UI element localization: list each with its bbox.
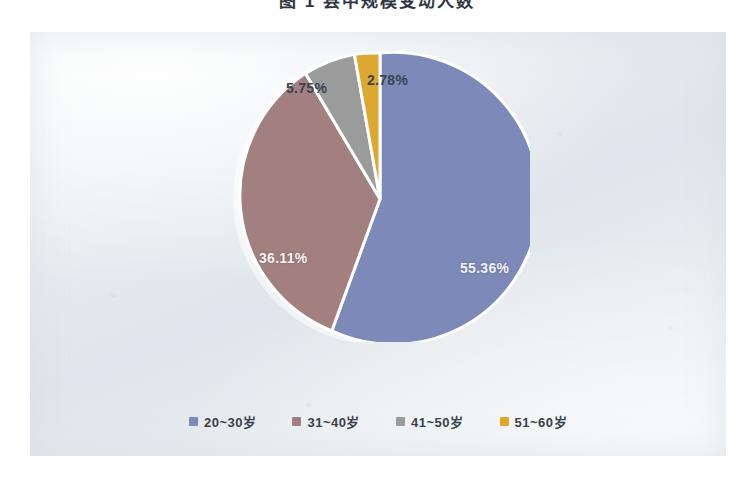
slice-label-51-60: 2.78%	[367, 72, 408, 88]
pie-graphic	[230, 46, 530, 342]
legend-item-41-50[interactable]: 41~50岁	[396, 412, 464, 431]
legend-swatch-icon-31-40	[292, 417, 301, 426]
legend-label-41-50: 41~50岁	[411, 412, 464, 431]
legend-label-51-60: 51~60岁	[515, 412, 568, 431]
legend-swatch-icon-20-30	[189, 417, 198, 426]
figure-title: 图 1 县中规模变动人数	[0, 0, 754, 9]
pie-chart-plot-area: 55.36% 36.11% 5.75% 2.78% 20~30岁 31~40岁 …	[30, 32, 726, 456]
legend-item-20-30[interactable]: 20~30岁	[189, 412, 257, 431]
slice-label-31-40: 36.11%	[259, 250, 308, 266]
legend-item-31-40[interactable]: 31~40岁	[292, 412, 360, 431]
legend-label-20-30: 20~30岁	[204, 412, 257, 431]
chart-legend: 20~30岁 31~40岁 41~50岁 51~60岁	[30, 412, 726, 431]
legend-swatch-icon-51-60	[500, 417, 509, 426]
pie-svg	[230, 46, 530, 342]
slice-label-41-50: 5.75%	[286, 80, 327, 96]
legend-label-31-40: 31~40岁	[307, 412, 360, 431]
slice-label-20-30: 55.36%	[460, 260, 509, 276]
legend-item-51-60[interactable]: 51~60岁	[500, 412, 568, 431]
legend-swatch-icon-41-50	[396, 417, 405, 426]
